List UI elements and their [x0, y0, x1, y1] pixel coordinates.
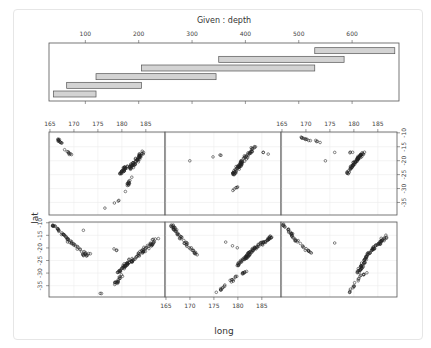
- lat-tick-label: -35: [36, 281, 43, 291]
- lat-tick-label: -25: [36, 255, 43, 265]
- long-tick-label: 185: [140, 120, 152, 127]
- depth-tick-label: 500: [293, 30, 305, 37]
- depth-tick-label: 400: [240, 30, 252, 37]
- scatter-panel: 165170175180185: [44, 120, 165, 215]
- long-tick-label: 185: [256, 302, 268, 309]
- long-tick-label: 170: [300, 120, 312, 127]
- long-tick-label: 175: [324, 120, 336, 127]
- scatter-panel: [165, 132, 281, 215]
- depth-tick-label: 100: [80, 30, 92, 37]
- depth-interval-bar: [219, 56, 344, 62]
- long-tick-label: 175: [92, 120, 104, 127]
- depth-tick-label: 200: [133, 30, 145, 37]
- coplot: Given : depth 100200300400500600 -10-15-…: [0, 0, 431, 348]
- lat-tick-label: -30: [36, 268, 43, 278]
- lat-tick-label: -20: [36, 243, 43, 253]
- lat-tick-label: -35: [400, 197, 407, 207]
- long-tick-label: 165: [160, 302, 172, 309]
- scatter-panels: -10-15-20-25-30-351651701751801851651701…: [36, 120, 407, 309]
- long-tick-label: 185: [372, 120, 384, 127]
- given-depth-panel: 100200300400500600: [49, 30, 399, 104]
- depth-interval-bar: [315, 48, 395, 54]
- depth-interval-bar: [67, 82, 142, 88]
- scatter-panel: 165170175180185: [160, 222, 281, 309]
- lat-tick-label: -10: [400, 128, 407, 138]
- lat-tick-label: -20: [400, 156, 407, 166]
- depth-tick-label: 600: [346, 30, 358, 37]
- scatter-panel: 165170175180185-10-15-20-25-30-35: [276, 120, 407, 215]
- x-axis-label: long: [214, 326, 233, 336]
- scatter-panel: -10-15-20-25-30-35: [36, 218, 165, 297]
- long-tick-label: 165: [44, 120, 56, 127]
- long-tick-label: 165: [276, 120, 288, 127]
- lat-tick-label: -15: [36, 230, 43, 240]
- depth-interval-bar: [141, 65, 314, 71]
- long-tick-label: 180: [116, 120, 128, 127]
- depth-tick-label: 300: [186, 30, 198, 37]
- lat-tick-label: -30: [400, 183, 407, 193]
- depth-interval-bar: [53, 91, 96, 97]
- lat-tick-label: -15: [400, 142, 407, 152]
- y-axis-label: lat: [30, 212, 40, 224]
- long-tick-label: 180: [232, 302, 244, 309]
- long-tick-label: 170: [68, 120, 80, 127]
- long-tick-label: 170: [184, 302, 196, 309]
- chart-title: Given : depth: [197, 16, 251, 25]
- scatter-panel: [281, 222, 397, 297]
- long-tick-label: 175: [208, 302, 220, 309]
- long-tick-label: 180: [348, 120, 360, 127]
- depth-interval-bar: [96, 74, 216, 80]
- lat-tick-label: -25: [400, 170, 407, 180]
